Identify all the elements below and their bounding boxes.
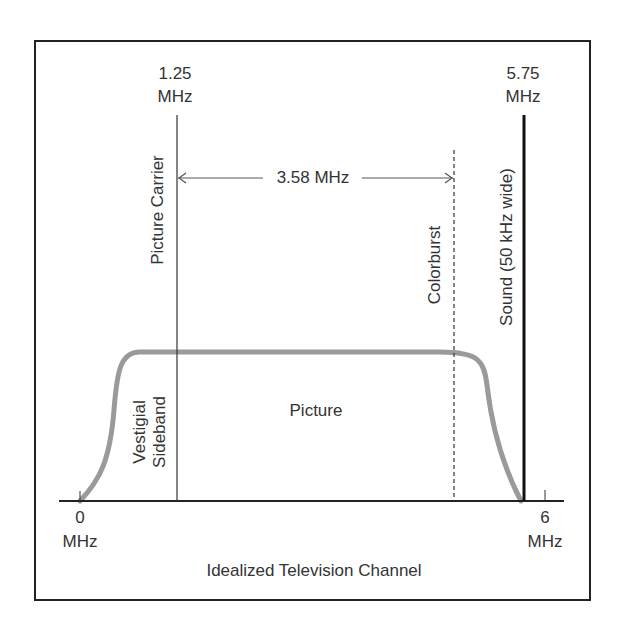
sideband-label: Sideband: [150, 396, 170, 468]
axis-end-value: 6: [525, 508, 565, 528]
vestigial-label: Vestigial: [130, 400, 150, 463]
picture-carrier-label: Picture Carrier: [148, 155, 168, 265]
sound-freq: 5.75: [498, 64, 548, 84]
axis-start-unit: MHz: [55, 532, 105, 552]
axis-end-unit: MHz: [520, 532, 570, 552]
diagram-title: Idealized Television Channel: [160, 561, 468, 581]
sound-unit: MHz: [498, 87, 548, 107]
picture-region-label: Picture: [276, 401, 356, 421]
colorburst-label: Colorburst: [425, 226, 445, 304]
axis-start-value: 0: [60, 508, 100, 528]
span-label: 3.58 MHz: [262, 168, 364, 188]
picture-carrier-freq: 1.25: [150, 64, 200, 84]
sound-label: Sound (50 kHz wide): [497, 168, 517, 326]
picture-carrier-unit: MHz: [150, 87, 200, 107]
